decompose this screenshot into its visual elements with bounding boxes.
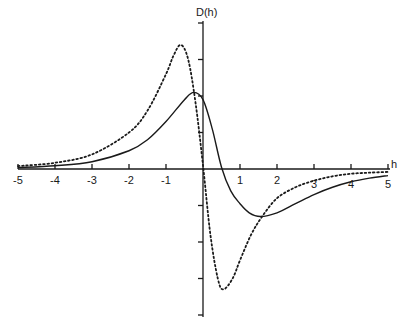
- x-tick-label: 2: [274, 174, 280, 186]
- x-tick-labels: -5-4-3-2-112345: [13, 174, 391, 190]
- x-axis-title: h: [391, 158, 397, 170]
- x-tick-label: -1: [161, 174, 171, 186]
- x-tick-label: -2: [124, 174, 134, 186]
- y-axis-title: D(h): [196, 6, 217, 18]
- x-tick-label: 4: [348, 178, 354, 190]
- chart: -5-4-3-2-112345 h D(h): [0, 0, 399, 324]
- x-tick-label: -5: [13, 174, 23, 186]
- x-tick-label: -4: [50, 174, 60, 186]
- x-tick-label: 5: [385, 178, 391, 190]
- x-tick-label: -3: [87, 174, 97, 186]
- x-tick-label: 1: [237, 174, 243, 186]
